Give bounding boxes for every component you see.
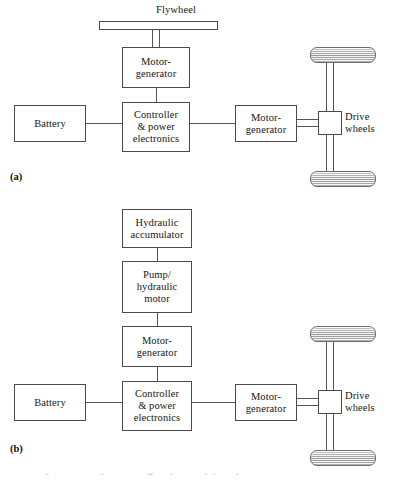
drive-wheels-label-a: Drive wheels (345, 111, 401, 135)
link-pump-mg-b (157, 313, 158, 326)
motor-generator-top-a: Motor- generator (122, 47, 190, 88)
axle-lower-a (326, 135, 334, 172)
drive-wheels-label-b: Drive wheels (345, 390, 401, 414)
battery-b: Battery (14, 384, 86, 421)
controller-b-label: Controller & power electronics (132, 388, 183, 423)
motor-generator-top-a-label: Motor- generator (134, 56, 179, 80)
controller-b: Controller & power electronics (122, 381, 192, 431)
battery-a-label: Battery (32, 118, 68, 130)
link-battery-controller-a (86, 123, 122, 124)
drive-shaft-horizontal-a (297, 119, 318, 127)
axle-upper-a (326, 62, 334, 111)
motor-generator-right-a: Motor- generator (235, 105, 297, 142)
wheel-lower-b (310, 450, 376, 466)
hydraulic-accumulator-b: Hydraulic accumulator (122, 209, 192, 248)
panel-tag-b: (b) (10, 443, 23, 454)
flywheel-shaft (152, 30, 160, 47)
flywheel-disc (99, 21, 218, 30)
figure-caption-clipped: Hybrid drive system using a flywheel (a)… (0, 473, 404, 482)
wheel-lower-a (310, 171, 376, 187)
motor-generator-top-b: Motor- generator (122, 326, 192, 367)
link-controller-mg-right-a (190, 123, 235, 124)
pump-hydraulic-motor-b-label: Pump/ hydraulic motor (135, 269, 180, 304)
battery-b-label: Battery (32, 397, 68, 409)
pump-hydraulic-motor-b: Pump/ hydraulic motor (122, 261, 192, 313)
wheel-upper-b (310, 326, 376, 342)
link-mg-controller-b (157, 367, 158, 381)
link-accumulator-pump-b (157, 248, 158, 261)
flywheel-label: Flywheel (136, 4, 216, 16)
link-battery-controller-b (86, 402, 122, 403)
axle-upper-b (326, 341, 334, 390)
controller-a-label: Controller & power electronics (131, 109, 182, 144)
hydraulic-accumulator-b-label: Hydraulic accumulator (129, 217, 186, 241)
wheel-upper-a (310, 47, 376, 63)
figure-caption-text: Hybrid drive system using a flywheel (a)… (38, 473, 272, 475)
panel-tag-a: (a) (10, 171, 22, 182)
motor-generator-right-b-label: Motor- generator (244, 391, 289, 415)
axle-lower-b (326, 414, 334, 451)
drive-hub-a (318, 111, 342, 135)
link-mg-controller-a (156, 88, 157, 102)
battery-a: Battery (14, 105, 86, 142)
drive-shaft-horizontal-b (297, 398, 318, 406)
figure-canvas: Flywheel Motor- generator Battery Contro… (0, 0, 404, 482)
controller-a: Controller & power electronics (122, 102, 190, 152)
link-controller-mg-right-b (192, 402, 235, 403)
motor-generator-right-a-label: Motor- generator (244, 112, 289, 136)
motor-generator-top-b-label: Motor- generator (135, 335, 180, 359)
motor-generator-right-b: Motor- generator (235, 384, 297, 421)
drive-hub-b (318, 390, 342, 414)
